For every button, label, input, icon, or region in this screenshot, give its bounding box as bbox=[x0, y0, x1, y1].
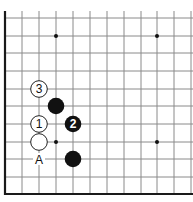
star-point bbox=[54, 34, 58, 38]
star-point bbox=[54, 140, 58, 144]
board-markers: A bbox=[33, 153, 45, 167]
black-stone-2: 2 bbox=[65, 116, 82, 133]
move-number: 2 bbox=[70, 117, 77, 131]
board-edges bbox=[4, 11, 193, 195]
move-number: 3 bbox=[36, 82, 43, 96]
stone-circle bbox=[31, 134, 48, 151]
go-board-diagram: A 312 bbox=[0, 0, 193, 202]
black-stone bbox=[48, 98, 65, 115]
star-point bbox=[155, 140, 159, 144]
stone-circle bbox=[48, 98, 65, 115]
move-number: 1 bbox=[36, 117, 43, 131]
board-grid bbox=[5, 11, 193, 194]
black-stone bbox=[65, 151, 82, 168]
white-stone-1: 1 bbox=[31, 116, 48, 133]
white-stone-3: 3 bbox=[31, 81, 48, 98]
marker-label-a: A bbox=[35, 153, 43, 167]
stone-circle bbox=[65, 151, 82, 168]
white-stone bbox=[31, 134, 48, 151]
star-point bbox=[155, 34, 159, 38]
